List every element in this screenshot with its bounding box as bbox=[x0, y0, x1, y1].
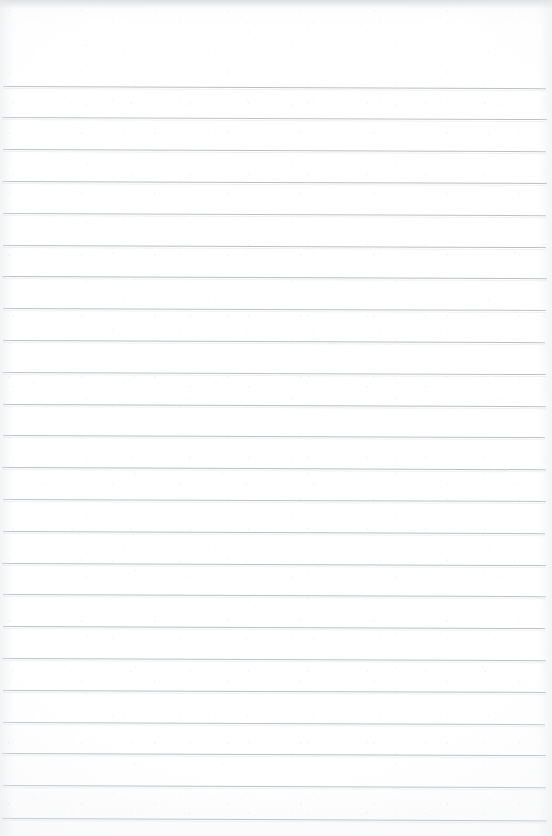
ruled-line bbox=[3, 213, 546, 216]
ruled-line bbox=[2, 467, 546, 470]
ruled-line bbox=[3, 785, 546, 788]
ruled-line bbox=[2, 753, 546, 756]
ruled-line bbox=[2, 563, 546, 566]
ruled-line bbox=[3, 531, 545, 534]
ruled-line bbox=[3, 340, 545, 343]
ruled-line bbox=[2, 181, 547, 184]
ruled-line bbox=[3, 594, 546, 597]
ruled-line bbox=[3, 86, 546, 89]
ruled-line bbox=[2, 658, 546, 661]
ruled-line bbox=[3, 149, 546, 152]
ruled-line bbox=[2, 372, 546, 375]
ruled-line bbox=[3, 435, 545, 438]
ruled-line bbox=[3, 626, 545, 629]
ruled-lines-group bbox=[0, 0, 552, 836]
ruled-line bbox=[3, 690, 546, 693]
ruled-line bbox=[3, 245, 546, 248]
ruled-line bbox=[2, 276, 547, 279]
ruled-line bbox=[3, 308, 546, 311]
ruled-line bbox=[3, 404, 546, 407]
scanned-page bbox=[0, 0, 552, 836]
ruled-line bbox=[3, 722, 545, 725]
ruled-line bbox=[2, 818, 547, 821]
ruled-line bbox=[3, 499, 546, 502]
ruled-line bbox=[2, 117, 547, 120]
